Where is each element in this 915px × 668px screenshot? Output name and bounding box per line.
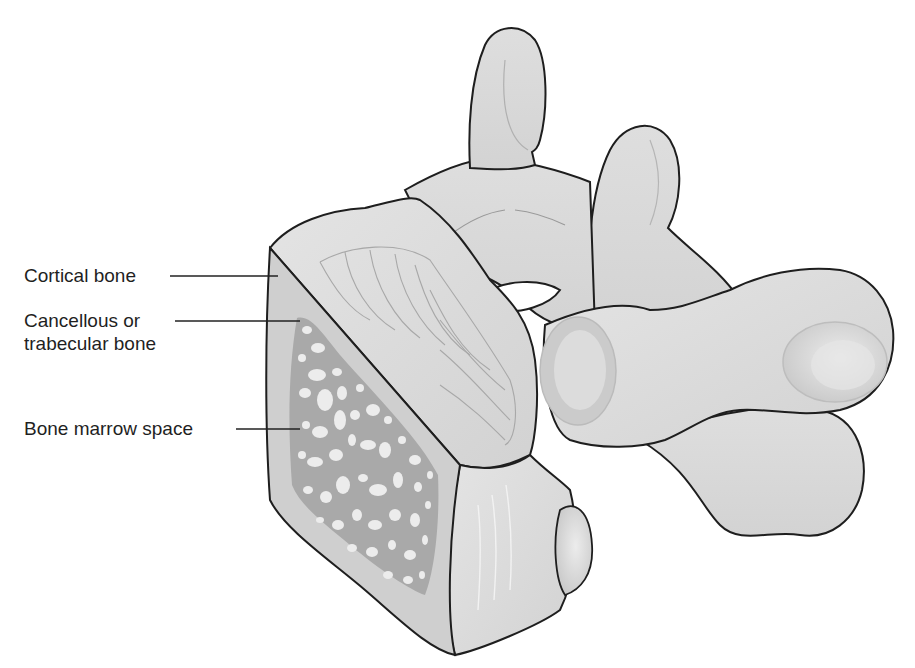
label-cancellous-bone: Cancellous or trabecular bone [24,309,224,355]
superior-articular-process-left [469,28,545,169]
label-bone-marrow-space: Bone marrow space [24,417,193,440]
label-cancellous-line2: trabecular bone [24,332,224,355]
inferior-facet [555,506,592,595]
vertebral-body-side [448,455,592,655]
label-cortical-bone: Cortical bone [24,264,136,287]
pedicle-facet [540,317,616,425]
label-cancellous-line1: Cancellous or [24,309,224,332]
vertebra-diagram: Cortical bone Cancellous or trabecular b… [0,0,915,668]
